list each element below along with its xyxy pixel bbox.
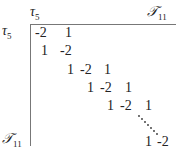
top-border-line bbox=[30, 24, 176, 25]
col-label-T11: 𝒯11 bbox=[147, 4, 167, 22]
row-label-T11: 𝒯11 bbox=[2, 131, 22, 149]
matrix-entry: 1 bbox=[104, 63, 111, 77]
matrix-entry: -2 bbox=[120, 99, 132, 113]
matrix-entry: 1 bbox=[41, 44, 48, 58]
left-border-line bbox=[30, 24, 31, 146]
matrix-entry: -2 bbox=[80, 63, 92, 77]
matrix-entry: 1 bbox=[107, 99, 114, 113]
matrix-entry: -2 bbox=[100, 81, 112, 95]
matrix-entry: 1 bbox=[125, 81, 132, 95]
matrix-entry: 1 bbox=[87, 81, 94, 95]
diagonal-ellipsis-icon bbox=[137, 114, 161, 138]
matrix-entry: -2 bbox=[60, 44, 72, 58]
matrix-entry: 1 bbox=[65, 26, 72, 40]
matrix-entry: -2 bbox=[35, 26, 47, 40]
matrix-entry: 1 bbox=[67, 63, 74, 77]
row-label-tau5: τ5 bbox=[2, 23, 12, 41]
matrix-entry: 1 bbox=[145, 99, 152, 113]
col-label-tau5: τ5 bbox=[30, 4, 40, 22]
